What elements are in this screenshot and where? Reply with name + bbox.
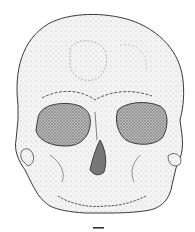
left-orbit (36, 104, 90, 146)
illustration (0, 0, 195, 232)
skull-drawing (0, 0, 195, 232)
right-orbit (116, 103, 167, 145)
scale-bar (93, 227, 104, 229)
